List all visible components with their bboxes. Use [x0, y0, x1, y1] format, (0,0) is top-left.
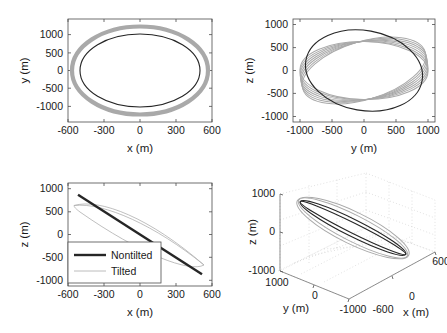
- panel-xz-xtick-labels: -600 -300 0 300 600: [57, 288, 220, 300]
- xtick-label: 300: [167, 288, 185, 300]
- xtick-label: -1000: [287, 124, 314, 136]
- panel-yz: -1000 -500 0 500 1000 1000 500 0 -500 -1…: [223, 0, 447, 167]
- ytick-label: 0: [57, 64, 63, 76]
- ytick-label: -1000: [340, 303, 367, 315]
- panel-3d-xlabel: x (m): [403, 306, 429, 318]
- xtick-label: -600: [372, 303, 393, 315]
- ytick-label: 1000: [40, 182, 64, 194]
- xtick-label: 500: [387, 124, 405, 136]
- ytick-label: 0: [57, 228, 63, 240]
- ytick-label: -1000: [261, 110, 288, 122]
- panel-3d: 1000 0 -1000 1000 0 -1000 -600 0 600 z (…: [223, 166, 447, 333]
- ytick-label: -500: [267, 87, 288, 99]
- panel-3d-zlabel: z (m): [246, 219, 258, 245]
- ytick-label: 500: [270, 41, 288, 53]
- xtick-label: -600: [57, 288, 78, 300]
- xtick-label: 0: [137, 288, 143, 300]
- xtick-label: 0: [361, 124, 367, 136]
- ytick-label: 1000: [265, 276, 289, 288]
- panel-yz-xtick-labels: -1000 -500 0 500 1000: [287, 124, 440, 136]
- ztick-label: -1000: [248, 264, 275, 276]
- panel-yz-ytick-labels: 1000 500 0 -500 -1000: [261, 18, 288, 122]
- ytick-label: 500: [45, 205, 63, 217]
- ytick-label: 500: [45, 47, 63, 59]
- panel-xy: -600 -300 0 300 600 1000 500 0 -500 -100…: [0, 0, 224, 167]
- panel-xz-xlabel: x (m): [127, 306, 153, 318]
- panel-yz-ylabel: z (m): [243, 57, 255, 83]
- xtick-label: -300: [93, 124, 114, 136]
- ytick-label: 1000: [265, 18, 289, 30]
- xtick-label: -300: [93, 288, 114, 300]
- xtick-label: 0: [409, 290, 415, 302]
- ytick-label: -1000: [36, 274, 63, 286]
- curve-tilted-xy: [72, 27, 208, 115]
- ytick-label: 0: [312, 289, 318, 301]
- ytick-label: -500: [42, 82, 63, 94]
- legend-label-nontilted: Nontilted: [111, 249, 153, 261]
- xtick-label: 300: [167, 124, 185, 136]
- panel-3d-ylabel: y (m): [283, 302, 309, 314]
- xtick-label: 0: [137, 124, 143, 136]
- curve-nontilted-xy: [80, 34, 200, 107]
- panel-3d-ytick-labels: 1000 0 -1000: [265, 276, 366, 315]
- panel-xz-ylabel: z (m): [18, 221, 30, 247]
- panel-yz-ticks: [293, 19, 435, 122]
- legend-label-tilted: Tilted: [111, 265, 136, 277]
- panel-yz-axes: [293, 19, 435, 122]
- xtick-label: 600: [203, 288, 221, 300]
- legend: Nontilted Tilted: [68, 242, 161, 283]
- panel-xz: Nontilted Tilted -600 -300 0 300 600 100…: [0, 166, 224, 333]
- xtick-label: 600: [432, 255, 447, 267]
- xtick-label: -600: [57, 124, 78, 136]
- figure-root: -600 -300 0 300 600 1000 500 0 -500 -100…: [0, 0, 447, 333]
- ytick-label: -500: [42, 251, 63, 263]
- panel-xy-xtick-labels: -600 -300 0 300 600: [57, 124, 220, 136]
- curve-nontilted-yz: [299, 21, 429, 120]
- panel-yz-xlabel: y (m): [351, 142, 377, 154]
- xtick-label: -500: [321, 124, 342, 136]
- curve-tilted-yz: [294, 24, 433, 117]
- ytick-label: -1000: [36, 100, 63, 112]
- curve-nontilted-3d: [296, 194, 409, 262]
- panel-xy-ytick-labels: 1000 500 0 -500 -1000: [36, 28, 63, 112]
- xtick-label: 1000: [416, 124, 440, 136]
- panel-xy-xlabel: x (m): [127, 142, 153, 154]
- ytick-label: 0: [282, 64, 288, 76]
- ztick-label: 1000: [252, 187, 276, 199]
- panel-xz-ytick-labels: 1000 500 0 -500 -1000: [36, 182, 63, 286]
- ytick-label: 1000: [40, 28, 64, 40]
- xtick-label: 600: [203, 124, 221, 136]
- ztick-label: 0: [269, 225, 275, 237]
- panel-xy-ylabel: y (m): [18, 57, 30, 83]
